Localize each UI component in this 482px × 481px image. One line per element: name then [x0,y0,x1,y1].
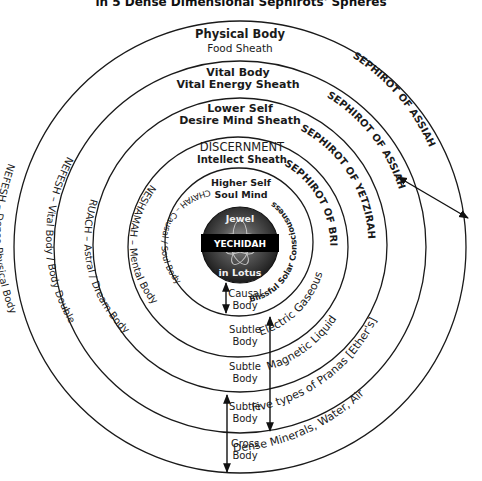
body-gross-line1: Gross [231,438,259,449]
arrow-assiah-span [398,177,468,218]
label-sephirot-assiah-inner: SEPHIROT OF ASSIAH [325,89,407,190]
sheath-physical-name: Physical Body [195,27,285,41]
sheath-discernment-name: DISCERNMENT [200,140,285,154]
sephirot-spheres-diagram: in 5 Dense Dimensional Sephirots' Sphere… [0,0,482,481]
sheath-vital-label: Vital Energy Sheath [176,78,299,91]
body-subtle-3-line2: Body [232,413,257,424]
label-electric-gaseous: Electric Gaseous [257,270,325,339]
label-ruach: RUACH – Astral / Dream Body [82,198,132,336]
core-top-label: Jewel [225,213,254,224]
body-subtle-2-line1: Subtle [229,361,261,372]
sheath-soul-mind-label: Soul Mind [215,189,268,200]
body-subtle-2-line2: Body [232,373,257,384]
body-subtle-3-line1: Subtle [229,401,261,412]
core-band-label: YECHIDAH [213,239,266,249]
body-subtle-1-line2: Body [232,336,257,347]
core-bottom-label: in Lotus [219,267,262,278]
sheath-desire-mind-label: Desire Mind Sheath [179,114,301,127]
body-causal-line1: Causal [228,288,262,299]
label-sephirot-assiah-outer: SEPHIROT OF ASSIAH [351,50,438,149]
body-gross-line2: Body [232,450,257,461]
body-causal-line2: Body [232,300,257,311]
label-nefesh-dense: NEFESH – Dense Physical Body [0,162,19,315]
body-subtle-1-line1: Subtle [229,324,261,335]
sheath-physical-label: Food Sheath [207,42,273,54]
label-neshamah: NESHAMAH – Mental Body [128,183,161,306]
label-nefesh-vital: NEFESH – Vital Body / Body Double [44,155,78,325]
sheath-intellect-label: Intellect Sheath [197,154,287,165]
sheath-higher-self-name: Higher Self [211,177,272,188]
yechidah-core: Jewel YECHIDAH in Lotus [201,207,279,283]
diagram-title: in 5 Dense Dimensional Sephirots' Sphere… [95,0,386,9]
